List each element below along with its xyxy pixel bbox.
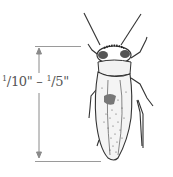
size-arrow-icon [37,48,42,158]
size-range-label: 1/10" – 1/5" [2,74,72,89]
min-denominator: 10" [11,74,33,89]
insect-size-figure: 1/10" – 1/5" [0,0,173,177]
range-separator: – [33,74,47,89]
min-numerator: 1 [2,74,7,83]
max-numerator: 1 [46,74,51,83]
max-denominator: 5" [55,74,69,89]
